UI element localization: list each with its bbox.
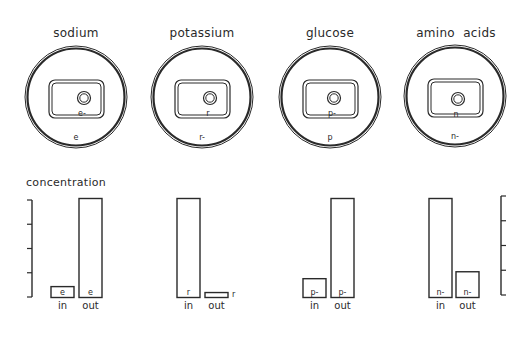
bar-label: n- xyxy=(464,288,472,297)
cell-transport-diagram: e-err-p-pnn- eeinoutrrinoutp-p-inoutn-n-… xyxy=(0,0,528,344)
cell-membrane-inner xyxy=(52,83,101,115)
potassium-bar-group: rrinout xyxy=(177,199,236,312)
inside-label: e- xyxy=(78,109,86,118)
potassium-cell-diagram: rr- xyxy=(151,46,253,148)
inside-label: n xyxy=(453,110,458,119)
out-category-label: out xyxy=(459,300,475,311)
outside-label: r- xyxy=(199,133,205,142)
out-bar xyxy=(331,199,354,298)
out-category-label: out xyxy=(82,300,98,311)
in-category-label: in xyxy=(184,300,193,311)
cells-layer: e-err-p-pnn- xyxy=(25,45,506,148)
outer-ring-thick xyxy=(28,49,125,146)
cell-membrane-inner xyxy=(178,83,227,115)
glucose-cell-diagram: p-p xyxy=(279,46,381,148)
left-concentration-axis xyxy=(27,200,32,297)
in-category-label: in xyxy=(436,300,445,311)
sodium-cell-diagram: e-e xyxy=(25,46,127,148)
outside-label: p xyxy=(327,133,332,142)
nucleus-inner xyxy=(80,94,88,102)
amino-acids-cell-diagram: nn- xyxy=(404,45,506,147)
nucleus-inner xyxy=(206,94,214,102)
out-category-label: out xyxy=(208,300,224,311)
bar-label: e xyxy=(60,288,65,297)
cell-membrane-outer xyxy=(175,80,230,118)
outer-ring-thick xyxy=(154,49,251,146)
bar-label: r xyxy=(232,290,236,299)
glucose-bar-group: p-p-inout xyxy=(303,199,354,312)
bar-label: p- xyxy=(339,288,347,297)
bars-layer: eeinoutrrinoutp-p-inoutn-n-inout xyxy=(51,199,479,312)
out-category-label: out xyxy=(334,300,350,311)
amino-acids-bar-group: n-n-inout xyxy=(429,199,479,312)
in-bar xyxy=(177,199,200,298)
bar-label: n- xyxy=(437,288,445,297)
right-concentration-axis xyxy=(501,196,506,295)
in-category-label: in xyxy=(58,300,67,311)
nucleus-inner xyxy=(330,94,338,102)
nucleus-inner xyxy=(454,95,462,103)
in-category-label: in xyxy=(310,300,319,311)
sodium-bar-group: eeinout xyxy=(51,199,102,312)
out-bar xyxy=(205,293,228,298)
in-bar xyxy=(429,199,452,298)
bar-label: p- xyxy=(311,288,319,297)
inside-label: p- xyxy=(328,109,336,118)
cell-membrane-outer xyxy=(49,80,104,118)
inside-label: r xyxy=(206,109,210,118)
outside-label: e xyxy=(74,133,79,142)
outside-label: n- xyxy=(451,132,459,141)
bar-label: e xyxy=(88,288,93,297)
out-bar xyxy=(79,199,102,298)
